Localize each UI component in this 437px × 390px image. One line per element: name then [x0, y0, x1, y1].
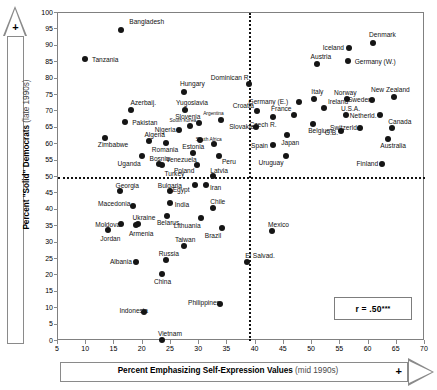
data-point	[187, 123, 193, 129]
y-tick-label: 85	[31, 58, 53, 65]
data-point	[176, 127, 182, 133]
data-point	[218, 117, 224, 123]
data-point	[194, 162, 200, 168]
x-tick-label: 25	[155, 345, 185, 352]
x-tick-mark	[424, 340, 425, 344]
correlation-value: r = .50	[356, 304, 382, 314]
data-point	[345, 58, 351, 64]
data-point	[389, 125, 395, 131]
x-tick-mark	[113, 340, 114, 344]
x-tick-mark	[311, 340, 312, 344]
data-point-label: Hungary	[180, 80, 205, 87]
x-tick-label: 55	[324, 345, 354, 352]
x-tick-label: 30	[183, 345, 213, 352]
data-point-label: Sweden	[348, 96, 372, 103]
y-tick-mark	[54, 225, 58, 226]
data-point	[192, 182, 198, 188]
x-tick-mark	[368, 340, 369, 344]
y-tick-mark	[54, 209, 58, 210]
x-axis-title-main: Percent Emphasizing Self-Expression Valu…	[118, 366, 293, 375]
data-point-label: Jordan	[100, 235, 120, 242]
plot-area: BangladeshTanzaniaHungaryAzerbaij.Yugosl…	[57, 12, 424, 340]
y-tick-label: 45	[31, 189, 53, 196]
data-point-label: Austria	[311, 53, 332, 60]
data-point-label: Australia	[380, 142, 406, 149]
data-point	[128, 107, 134, 113]
data-point	[118, 27, 124, 33]
data-point	[370, 40, 376, 46]
data-point-label: Canada	[388, 118, 411, 125]
y-tick-label: 80	[31, 74, 53, 81]
y-tick-label: 15	[31, 287, 53, 294]
y-tick-label: 30	[31, 238, 53, 245]
scatter-plot-figure: + Percent "Solid" Democrats (late 1990s)…	[0, 0, 437, 390]
y-tick-mark	[54, 160, 58, 161]
data-point-label: South Africa	[196, 137, 222, 142]
data-point	[122, 119, 128, 125]
y-axis-title-sub: (late 1990s)	[22, 79, 31, 122]
data-point	[254, 108, 260, 114]
y-tick-label: 60	[31, 140, 53, 147]
y-tick-label: 5	[31, 320, 53, 327]
data-point-label: Slovenia	[175, 113, 200, 120]
data-point	[146, 138, 152, 144]
data-point-label: Netherld.	[350, 112, 377, 119]
data-point	[139, 153, 145, 159]
y-tick-mark	[54, 61, 58, 62]
data-point-label: Argentina	[203, 111, 224, 116]
data-point-label: Uganda	[118, 160, 141, 167]
data-point	[210, 205, 216, 211]
y-tick-label: 20	[31, 271, 53, 278]
x-tick-label: 40	[240, 345, 270, 352]
data-point	[159, 271, 165, 277]
x-tick-mark	[142, 340, 143, 344]
data-point	[311, 96, 317, 102]
data-point-label: Japan	[281, 139, 299, 146]
data-point-label: Iran	[210, 184, 221, 191]
y-tick-label: 25	[31, 255, 53, 262]
y-tick-label: 70	[31, 107, 53, 114]
data-point-label: G.B.	[325, 129, 338, 136]
x-axis-title-sub: (mid 1990s)	[295, 366, 338, 375]
data-point-label: Latvia	[210, 167, 228, 174]
data-point-label: Germany (W.)	[355, 58, 396, 65]
data-point-label: Italy	[311, 88, 323, 95]
x-tick-mark	[57, 340, 58, 344]
data-point-label: France	[271, 105, 292, 112]
data-point-label: Ukraine	[133, 214, 156, 221]
data-point-label: Russia	[159, 250, 179, 257]
data-point-label: Lithuania	[174, 222, 201, 229]
correlation-legend: r = .50***	[334, 297, 412, 320]
data-point-label: Romania	[152, 146, 178, 153]
x-tick-mark	[85, 340, 86, 344]
data-point	[167, 200, 173, 206]
data-point	[182, 107, 188, 113]
y-tick-label: 75	[31, 91, 53, 98]
data-point-label: Vietnam	[158, 330, 182, 337]
x-axis-plus-marker: +	[396, 365, 402, 378]
y-tick-label: 65	[31, 123, 53, 130]
data-point	[377, 112, 383, 118]
reference-line-horizontal	[58, 177, 425, 179]
data-point	[314, 61, 320, 67]
data-point-label: Finland	[357, 160, 379, 167]
y-tick-label: 10	[31, 304, 53, 311]
y-tick-label: 90	[31, 41, 53, 48]
data-point-label: Tanzania	[92, 56, 118, 63]
data-point	[270, 114, 276, 120]
data-point	[196, 120, 202, 126]
data-point	[338, 128, 344, 134]
data-point-label: Zimbabwe	[98, 141, 128, 148]
data-point-label: Uruguay	[259, 159, 284, 166]
data-point-label: Macedonia	[98, 200, 130, 207]
y-tick-mark	[54, 291, 58, 292]
y-tick-mark	[54, 28, 58, 29]
data-point-label: Georgia	[116, 182, 139, 189]
data-point-label: Armenia	[129, 230, 154, 237]
data-point-label: Germany (E.)	[249, 98, 289, 105]
x-tick-label: 65	[381, 345, 411, 352]
data-point	[269, 228, 275, 234]
y-axis-title-main: Percent "Solid" Democrats	[22, 125, 31, 230]
data-point	[82, 56, 88, 62]
y-tick-mark	[54, 78, 58, 79]
